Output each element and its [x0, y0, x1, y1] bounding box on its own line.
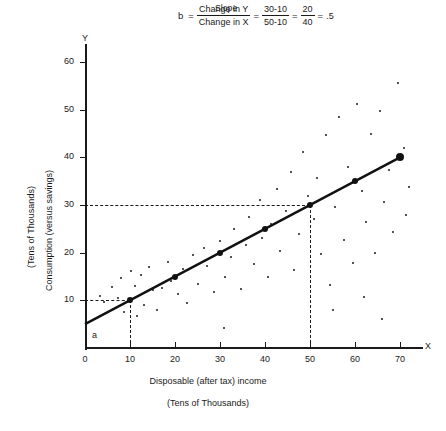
scatter-point — [347, 166, 349, 168]
x-tick-60 — [355, 342, 356, 348]
line-marker-20-15 — [172, 274, 178, 280]
denominator-50-minus-10: 50-10 — [262, 17, 289, 27]
scatter-point — [320, 253, 322, 255]
guide-line-vertical-10 — [130, 300, 131, 348]
y-tick-10 — [80, 300, 87, 301]
scatter-point — [298, 233, 300, 235]
scatter-point — [203, 247, 205, 249]
scatter-point — [182, 268, 184, 270]
scatter-point — [379, 110, 381, 112]
scatter-point — [338, 116, 340, 118]
guide-line-horizontal-10 — [85, 300, 130, 301]
scatter-point — [259, 199, 261, 201]
fraction-bar-2 — [262, 15, 289, 16]
scatter-point — [177, 293, 179, 295]
scatter-point — [224, 276, 226, 278]
x-tick-70 — [400, 342, 401, 348]
y-axis-letter: Y — [82, 33, 88, 43]
x-tick-30 — [220, 342, 221, 348]
line-marker-30-20 — [217, 250, 223, 256]
scatter-point — [352, 262, 354, 264]
scatter-point — [408, 186, 410, 188]
scatter-point — [374, 252, 376, 254]
scatter-point — [192, 254, 194, 256]
y-axis-line — [85, 44, 87, 350]
scatter-point — [134, 285, 136, 287]
numerator-change-in-y: Change in Y — [197, 4, 250, 14]
line-marker-50-30 — [307, 202, 313, 208]
y-axis-title: Consumption (versus savings) — [44, 170, 54, 291]
x-axis-line — [85, 347, 423, 349]
x-tick-label-0: 0 — [74, 355, 96, 364]
scatter-point — [219, 240, 221, 242]
scatter-point — [270, 223, 272, 225]
y-tick-label-40: 40 — [52, 152, 74, 161]
scatter-point — [197, 283, 199, 285]
fraction-bar-3 — [301, 15, 315, 16]
scatter-point — [213, 291, 215, 293]
scatter-point — [329, 284, 331, 286]
x-axis-title: Disposable (after tax) income — [0, 376, 431, 386]
fraction-numeric-2: 20 40 — [301, 4, 315, 27]
scatter-point — [253, 263, 255, 265]
formula-equals-3: = — [292, 10, 298, 21]
x-tick-10 — [130, 342, 131, 348]
scatter-point — [293, 269, 295, 271]
line-marker-60-35 — [352, 178, 358, 184]
scatter-point — [230, 256, 232, 258]
scatter-point — [285, 210, 287, 212]
scatter-point — [392, 231, 394, 233]
scatter-point — [233, 228, 235, 230]
scatter-point — [117, 297, 119, 299]
x-tick-50 — [310, 342, 311, 348]
scatter-point — [245, 244, 247, 246]
x-axis-letter: X — [425, 341, 431, 351]
scatter-point — [325, 134, 327, 136]
scatter-point — [103, 301, 105, 303]
formula-equals-4: = — [318, 10, 324, 21]
scatter-point — [361, 190, 363, 192]
scatter-point — [405, 214, 407, 216]
scatter-point — [334, 206, 336, 208]
scatter-point — [363, 296, 365, 298]
intercept-label-a: a — [92, 330, 97, 340]
y-tick-label-10: 10 — [52, 295, 74, 304]
scatter-point — [403, 147, 405, 149]
scatter-point — [343, 239, 345, 241]
y-tick-label-60: 60 — [52, 57, 74, 66]
scatter-point — [111, 286, 113, 288]
line-marker-40-25 — [262, 226, 268, 232]
y-tick-20 — [80, 253, 87, 254]
x-tick-label-40: 40 — [254, 355, 276, 364]
formula-equals-1: = — [188, 10, 194, 21]
x-tick-label-50: 50 — [299, 355, 321, 364]
scatter-point — [170, 280, 172, 282]
scatter-point — [261, 237, 263, 239]
scatter-point — [316, 177, 318, 179]
scatter-point — [156, 309, 158, 311]
x-tick-label-20: 20 — [164, 355, 186, 364]
y-tick-label-50: 50 — [52, 105, 74, 114]
scatter-point — [140, 274, 142, 276]
x-tick-label-70: 70 — [389, 355, 411, 364]
line-marker-10-10 — [127, 297, 133, 303]
scatter-point — [356, 103, 358, 105]
guide-line-vertical-50 — [310, 205, 311, 348]
scatter-point — [397, 82, 399, 84]
scatter-point — [302, 151, 304, 153]
line-marker-70-40 — [396, 153, 404, 161]
x-axis-subtitle: (Tens of Thousands) — [0, 398, 431, 408]
scatter-point — [388, 169, 390, 171]
scatter-point — [130, 270, 132, 272]
y-tick-40 — [80, 157, 87, 158]
y-tick-30 — [80, 205, 87, 206]
regression-line — [85, 157, 400, 324]
fraction-change-in-y-over-x: Change in Y Change in X — [197, 4, 251, 27]
scatter-point — [332, 309, 334, 311]
scatter-point — [370, 133, 372, 135]
scatter-point — [267, 276, 269, 278]
fraction-bar-1 — [197, 15, 251, 16]
scatter-point — [161, 287, 163, 289]
scatter-point — [223, 327, 225, 329]
guide-line-horizontal-30 — [85, 205, 310, 206]
